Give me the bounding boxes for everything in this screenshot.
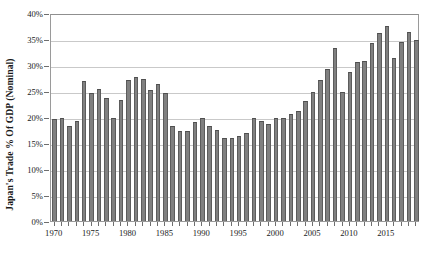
y-tick-mark [44,66,49,67]
bar [156,84,161,221]
x-tick-label: 2015 [377,228,394,238]
x-tick-mark [415,222,416,226]
bar [333,48,338,221]
bar [252,118,257,221]
x-tick-label: 1995 [230,228,247,238]
y-tick-label: 30% [27,61,43,71]
x-tick-mark [334,222,335,226]
x-tick-mark [187,222,188,226]
x-tick-mark [76,222,77,226]
y-tick-label: 0% [32,217,43,227]
bar [52,119,57,221]
bar [163,93,168,221]
bar [82,81,87,221]
x-tick-mark [135,222,136,226]
x-tick-mark [246,222,247,226]
bar-chart: Japan's Trade % Of GDP (Nominal) 0%5%10%… [0,0,432,269]
bar [355,62,360,221]
bar [296,111,301,221]
bar [318,80,323,221]
x-tick-mark [386,222,387,226]
x-tick-label: 2000 [266,228,283,238]
x-tick-mark [349,222,350,226]
bar [111,118,116,221]
x-tick-mark [408,222,409,226]
bar [89,93,94,221]
y-tick-mark [44,92,49,93]
y-tick-label: 20% [27,113,43,123]
bar [60,118,65,221]
x-tick-mark [297,222,298,226]
bar [75,121,80,221]
y-tick-label: 40% [27,9,43,19]
x-tick-mark [83,222,84,226]
bar [414,40,419,221]
bar [148,90,153,221]
y-tick-mark [44,170,49,171]
x-tick-mark [319,222,320,226]
bar [392,58,397,221]
x-tick-mark [371,222,372,226]
y-tick-mark [44,40,49,41]
y-tick-label: 35% [27,35,43,45]
bar [67,126,72,221]
x-tick-mark [223,222,224,226]
bar-series [51,15,418,221]
x-tick-mark [268,222,269,226]
x-tick-mark [179,222,180,226]
bar [230,138,235,221]
bar [289,114,294,221]
bar [274,118,279,221]
x-tick-label: 1970 [45,228,62,238]
bar [222,138,227,221]
x-tick-mark [194,222,195,226]
x-tick-mark [364,222,365,226]
x-tick-mark [54,222,55,226]
y-tick-label: 5% [32,191,43,201]
x-tick-mark [172,222,173,226]
x-tick-mark [157,222,158,226]
y-tick-mark [44,196,49,197]
bar [362,61,367,221]
bar [104,98,109,221]
bar [207,126,212,221]
bar [399,42,404,221]
y-axis-ticks: 0%5%10%15%20%25%30%35%40% [0,0,50,236]
bar [200,118,205,221]
x-tick-mark [342,222,343,226]
x-tick-label: 2010 [340,228,357,238]
x-tick-mark [150,222,151,226]
x-tick-mark [401,222,402,226]
x-tick-mark [201,222,202,226]
y-tick-mark [44,144,49,145]
x-tick-mark [253,222,254,226]
x-tick-mark [238,222,239,226]
y-tick-mark [44,118,49,119]
x-tick-label: 1990 [193,228,210,238]
x-tick-mark [327,222,328,226]
bar [325,69,330,221]
x-tick-mark [275,222,276,226]
y-tick-label: 25% [27,87,43,97]
x-tick-mark [290,222,291,226]
plot-area [50,14,419,222]
x-tick-mark [98,222,99,226]
x-tick-mark [127,222,128,226]
bar [126,80,131,221]
x-tick-mark [113,222,114,226]
x-tick-mark [164,222,165,226]
bar [193,122,198,221]
bar [377,33,382,221]
bar [311,92,316,221]
bar [244,133,249,221]
x-tick-label: 1975 [82,228,99,238]
x-axis-ticks: 1970197519801985199019952000200520102015 [50,222,419,252]
bar [340,92,345,221]
x-tick-mark [209,222,210,226]
x-tick-mark [91,222,92,226]
bar [141,79,146,221]
x-tick-mark [312,222,313,226]
x-tick-mark [231,222,232,226]
bar [303,101,308,221]
bar [119,100,124,221]
